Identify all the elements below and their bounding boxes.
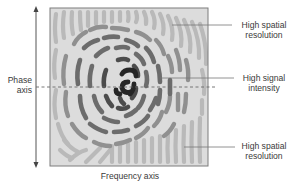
phase-axis-label-line1: Phase [0,75,32,85]
annotation-top-line2: resolution [234,30,294,40]
phase-axis-label: Phase axis [0,75,32,95]
annotation-top-line1: High spatial [234,20,294,30]
annotation-bottom-high-spatial-resolution: High spatial resolution [234,141,294,161]
annotation-middle-high-signal-intensity: High signal intensity [234,73,294,93]
annotation-middle-line1: High signal [234,73,294,83]
annotation-bottom-line1: High spatial [234,141,294,151]
annotation-bottom-line2: resolution [234,151,294,161]
frequency-axis-label: Frequency axis [90,171,170,181]
phase-axis-label-line2: axis [0,85,32,95]
annotation-top-high-spatial-resolution: High spatial resolution [234,20,294,40]
annotation-middle-line2: intensity [234,83,294,93]
